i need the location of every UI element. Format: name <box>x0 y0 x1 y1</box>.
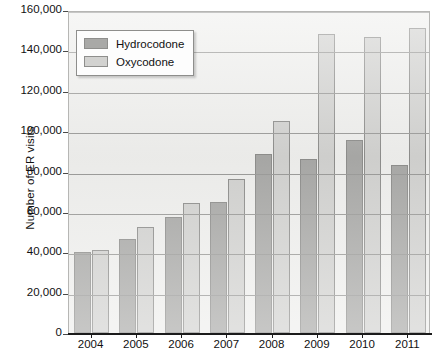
bar-hydrocodone-2009 <box>300 159 317 333</box>
x-tick-label-2008: 2008 <box>259 338 285 350</box>
bar-hydrocodone-2006 <box>165 217 182 333</box>
x-tick-label-2011: 2011 <box>395 338 420 350</box>
y-tick-mark <box>63 51 68 52</box>
bar-hydrocodone-2004 <box>74 252 91 333</box>
gridline <box>69 295 429 296</box>
y-tick-label: 160,000 <box>20 3 62 15</box>
x-tick-label-2004: 2004 <box>78 338 104 350</box>
gridline <box>69 93 429 94</box>
y-tick-mark <box>63 92 68 93</box>
bar-chart: Number of ER visits 020,00040,00060,0008… <box>0 0 438 364</box>
bar-oxycodone-2004 <box>92 250 109 333</box>
x-tick-label-2009: 2009 <box>304 338 330 350</box>
x-tick-label-2010: 2010 <box>349 338 375 350</box>
bar-oxycodone-2008 <box>273 121 290 333</box>
y-tick-label: 80,000 <box>27 165 62 177</box>
legend-item-oxycodone[interactable]: Oxycodone <box>84 54 184 69</box>
y-tick-label: 60,000 <box>27 205 62 217</box>
y-axis-title: Number of ER visits <box>24 98 36 258</box>
bar-hydrocodone-2007 <box>210 202 227 333</box>
legend-swatch-oxycodone <box>84 56 108 67</box>
y-tick-label: 40,000 <box>27 245 62 257</box>
y-tick-mark <box>63 213 68 214</box>
y-tick-mark <box>63 253 68 254</box>
bar-oxycodone-2011 <box>409 28 426 333</box>
legend: Hydrocodone Oxycodone <box>76 30 194 76</box>
x-axis-line <box>68 333 432 335</box>
y-tick-label: 20,000 <box>27 286 62 298</box>
bar-oxycodone-2007 <box>228 179 245 333</box>
x-tick-label-2007: 2007 <box>214 338 240 350</box>
bar-oxycodone-2006 <box>183 203 200 333</box>
bar-oxycodone-2010 <box>364 37 381 333</box>
y-tick-mark <box>63 173 68 174</box>
bar-oxycodone-2009 <box>318 34 335 333</box>
legend-label-hydrocodone: Hydrocodone <box>116 38 184 50</box>
bar-oxycodone-2005 <box>137 227 154 333</box>
bar-hydrocodone-2011 <box>391 165 408 333</box>
bar-hydrocodone-2008 <box>255 154 272 333</box>
y-tick-mark <box>63 294 68 295</box>
y-tick-mark <box>63 11 68 12</box>
y-tick-label: 140,000 <box>20 43 62 55</box>
legend-item-hydrocodone[interactable]: Hydrocodone <box>84 36 184 51</box>
x-tick-label-2005: 2005 <box>123 338 149 350</box>
legend-swatch-hydrocodone <box>84 38 108 49</box>
gridline <box>69 174 429 175</box>
y-tick-label: 0 <box>56 326 62 338</box>
gridline <box>69 133 429 134</box>
bar-hydrocodone-2010 <box>346 140 363 333</box>
y-tick-label: 100,000 <box>20 124 62 136</box>
x-tick-label-2006: 2006 <box>168 338 194 350</box>
gridline <box>69 254 429 255</box>
gridline <box>69 214 429 215</box>
y-tick-label: 120,000 <box>20 84 62 96</box>
y-tick-mark <box>63 132 68 133</box>
legend-label-oxycodone: Oxycodone <box>116 56 174 68</box>
gridline <box>69 12 429 13</box>
